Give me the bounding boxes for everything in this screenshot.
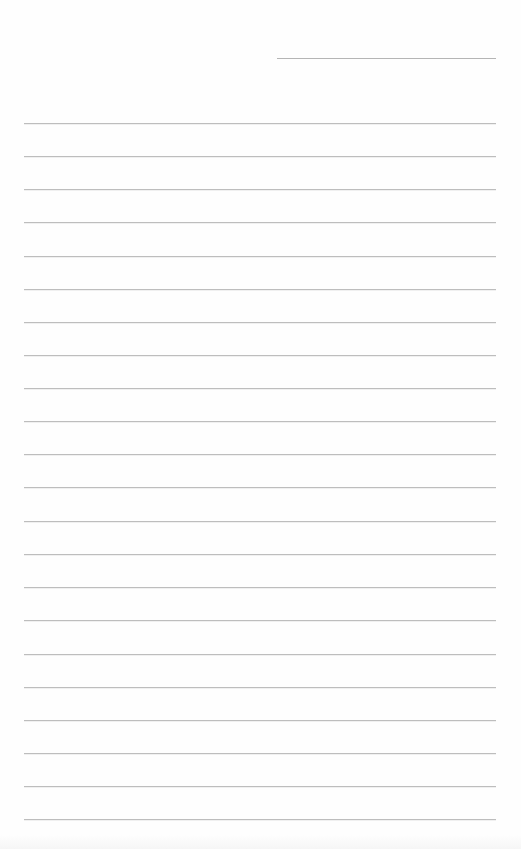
ruled-line [24,753,496,754]
lined-paper-page [0,0,521,849]
ruled-line [24,587,496,588]
ruled-line [24,322,496,323]
ruled-line [24,256,496,257]
ruled-line [24,454,496,455]
ruled-line [24,421,496,422]
ruled-line [24,819,496,820]
scan-edge-shadow [0,835,521,849]
ruled-line [24,786,496,787]
header-date-line [277,58,496,59]
ruled-line [24,687,496,688]
ruled-line [24,487,496,488]
ruled-line [24,355,496,356]
ruled-line [24,189,496,190]
ruled-line [24,720,496,721]
ruled-line [24,521,496,522]
ruled-line [24,289,496,290]
ruled-line [24,222,496,223]
ruled-line [24,620,496,621]
ruled-line [24,156,496,157]
ruled-line [24,554,496,555]
ruled-line [24,123,496,124]
ruled-line [24,388,496,389]
ruled-line [24,654,496,655]
